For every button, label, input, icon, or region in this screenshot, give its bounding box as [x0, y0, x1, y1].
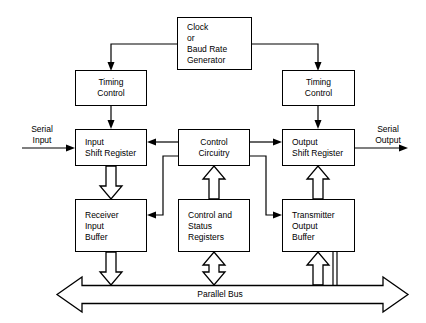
block-arrow-status-bus-bidirectional [203, 252, 225, 285]
box-receiver-input-buffer[interactable]: Receiver Input Buffer [75, 199, 147, 252]
box-output-shift-register-label: Output Shift Register [292, 137, 343, 159]
box-transmitter-output-buffer-label: Transmitter Output Buffer [292, 209, 335, 242]
block-arrow-status-to-control [203, 166, 225, 199]
box-input-shift-register-label: Input Shift Register [85, 137, 136, 159]
box-control-status-registers[interactable]: Control and Status Registers [178, 199, 250, 252]
box-timing-control-right-label: Timing Control [283, 77, 354, 99]
box-control-circuitry-label: Control Circuitry [179, 137, 249, 159]
box-timing-control-left-label: Timing Control [76, 77, 146, 99]
block-arrow-receiver-to-bus [100, 252, 122, 285]
block-arrow-transmitter-to-output [307, 166, 329, 199]
box-control-circuitry[interactable]: Control Circuitry [178, 129, 250, 166]
box-clock-baud-rate-generator[interactable]: Clock or Baud Rate Generator [177, 17, 252, 70]
parallel-bus-label: Parallel Bus [160, 289, 280, 299]
box-timing-control-left[interactable]: Timing Control [75, 70, 147, 106]
uart-block-diagram: Clock or Baud Rate Generator Timing Cont… [0, 0, 426, 323]
box-timing-control-right[interactable]: Timing Control [282, 70, 355, 106]
box-transmitter-output-buffer[interactable]: Transmitter Output Buffer [282, 199, 355, 252]
serial-output-label: Serial Output [358, 124, 418, 146]
box-output-shift-register[interactable]: Output Shift Register [282, 129, 355, 166]
box-control-status-registers-label: Control and Status Registers [188, 209, 232, 242]
block-arrow-input-to-receiver [100, 166, 122, 199]
serial-input-label: Serial Input [12, 124, 72, 146]
box-receiver-input-buffer-label: Receiver Input Buffer [85, 209, 119, 242]
block-arrow-bus-to-transmitter [307, 252, 329, 285]
box-clock-label: Clock or Baud Rate Generator [187, 22, 227, 66]
box-input-shift-register[interactable]: Input Shift Register [75, 129, 147, 166]
